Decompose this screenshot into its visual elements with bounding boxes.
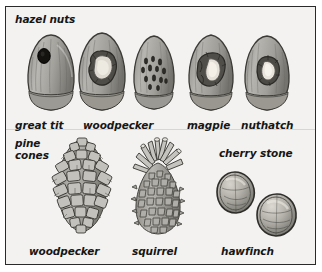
specimen-nut-nuthatch [240, 34, 294, 113]
specimen-label-woodpecker-nut: woodpecker [83, 119, 153, 131]
plate-frame: hazel nuts [5, 6, 316, 265]
specimen-label-great-tit: great tit [15, 119, 63, 131]
illustration-plate: hazel nuts [0, 0, 322, 272]
specimen-cone-woodpecker [43, 135, 121, 237]
specimen-nut-pitted [130, 34, 178, 112]
specimen-label-squirrel: squirrel [132, 245, 177, 257]
pine-cones-line1: pine [15, 137, 40, 149]
specimen-label-magpie: magpie [187, 119, 230, 131]
specimen-label-nuthatch: nuthatch [241, 119, 293, 131]
specimen-label-woodpecker-cone: woodpecker [29, 245, 99, 257]
specimen-nut-magpie [184, 33, 238, 113]
group-label-hazel-nuts: hazel nuts [15, 13, 75, 25]
specimen-nut-woodpecker [75, 31, 129, 113]
specimen-cone-squirrel [124, 137, 192, 237]
specimen-label-hawfinch: hawfinch [221, 245, 274, 257]
specimen-cherry-stone-right [254, 191, 300, 239]
group-label-cherry-stone: cherry stone [219, 147, 293, 159]
specimen-cherry-stone-left [214, 170, 258, 216]
specimen-nut-great-tit [23, 33, 79, 113]
